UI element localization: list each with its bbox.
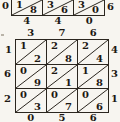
lattice-cell-r2c1: 0 9 [16,65,46,88]
units-digit: 3 [34,102,41,111]
units-digit: 9 [34,78,41,87]
tens-digit: 0 [20,66,27,75]
top-lattice-cell-1: 1 8 [12,0,42,15]
product-digit: 4 [42,16,73,25]
bottom-lattice-row-3: 0 3 0 7 0 6 [16,88,108,112]
units-digit: 4 [96,54,103,63]
tens-digit: 1 [16,0,23,9]
top-lattice-cell-3: 3 0 [73,0,104,15]
bottom-lattice-multiplier-digit-3: 1 [111,94,118,103]
bottom-lattice-multiplier-digit-2: 3 [111,69,118,78]
bottom-lattice-left-product-digit-1: 1 [5,45,12,54]
top-lattice-row: 1 8 3 6 3 0 [12,0,104,15]
product-digit: 6 [78,113,109,122]
tens-digit: 0 [20,90,27,99]
units-digit: 8 [96,78,103,87]
lattice-multiplication-worksheet: 0 6 1 8 3 6 3 0 4 4 0 3 7 [0,0,120,122]
tens-digit: 0 [51,90,58,99]
bottom-lattice-left-product-digit-2: 6 [4,69,11,78]
lattice-cell-r3c3: 0 6 [77,89,108,112]
top-lattice-product-digit-left: 0 [2,1,9,10]
units-digit: 6 [96,102,103,111]
top-lattice-grid: 1 8 3 6 3 0 [11,0,105,16]
units-digit: 8 [30,5,37,14]
product-digit: 5 [46,113,77,122]
tens-digit: 1 [20,41,27,50]
bottom-lattice-left-product-digit-3: 2 [4,94,11,103]
top-lattice-multiplier-digit: 6 [107,2,114,11]
lattice-cell-r1c1: 1 2 [16,40,46,64]
bottom-lattice-grid: 1 2 2 8 2 4 0 9 2 1 [15,39,109,113]
multiplicand-digit: 3 [15,28,46,37]
scan-artifact-mark [1,34,4,36]
units-digit: 7 [65,102,72,111]
lattice-cell-r3c2: 0 7 [46,89,77,112]
lattice-cell-r3c1: 0 3 [16,89,46,112]
product-digit: 4 [11,16,42,25]
bottom-lattice-bottom-product-digits: 0 5 6 [15,113,109,122]
lattice-cell-r2c2: 2 1 [46,65,77,88]
tens-digit: 2 [82,41,89,50]
product-digit: 0 [74,16,105,25]
tens-digit: 2 [51,41,58,50]
units-digit: 8 [65,54,72,63]
tens-digit: 0 [82,90,89,99]
top-lattice-bottom-product-digits: 4 4 0 [11,16,105,25]
bottom-lattice-multiplier-digit-1: 4 [111,45,118,54]
tens-digit: 1 [82,66,89,75]
units-digit: 1 [65,78,72,87]
lattice-cell-r1c3: 2 4 [77,40,108,64]
bottom-lattice-multiplicand-digits: 3 7 6 [15,28,109,37]
multiplicand-digit: 6 [78,28,109,37]
tens-digit: 3 [47,0,54,9]
multiplicand-digit: 7 [46,28,77,37]
units-digit: 2 [34,54,41,63]
bottom-lattice-row-2: 0 9 2 1 1 8 [16,64,108,88]
units-digit: 0 [92,5,99,14]
lattice-cell-r2c3: 1 8 [77,65,108,88]
bottom-lattice-row-1: 1 2 2 8 2 4 [16,40,108,64]
top-lattice-cell-2: 3 6 [42,0,73,15]
tens-digit: 3 [78,0,85,9]
product-digit: 0 [15,113,46,122]
tens-digit: 2 [51,66,58,75]
units-digit: 6 [61,5,68,14]
lattice-cell-r1c2: 2 8 [46,40,77,64]
